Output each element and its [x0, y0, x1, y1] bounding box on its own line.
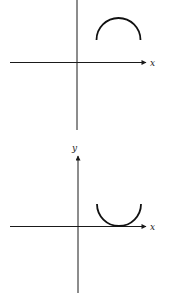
top-semicircle-arc	[97, 18, 141, 40]
top-x-label: x	[150, 58, 155, 68]
bottom-x-label: x	[150, 222, 155, 232]
diagram-canvas: x x y	[0, 0, 169, 307]
bottom-semicircle-arc	[97, 204, 141, 226]
top-graph: x	[10, 0, 155, 130]
bottom-graph: x y	[10, 143, 155, 293]
bottom-y-label: y	[71, 143, 78, 153]
